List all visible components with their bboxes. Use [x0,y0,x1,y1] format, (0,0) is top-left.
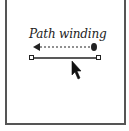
path-segment [30,56,101,60]
selection-cursor-icon [72,61,81,79]
direction-arrow [33,43,97,51]
anchor-point-right-icon [97,56,101,60]
arrowhead-left-icon [33,43,40,51]
start-point-dot-icon [91,43,97,51]
anchor-point-left-icon [30,56,34,60]
path-winding-illustration [0,0,129,131]
